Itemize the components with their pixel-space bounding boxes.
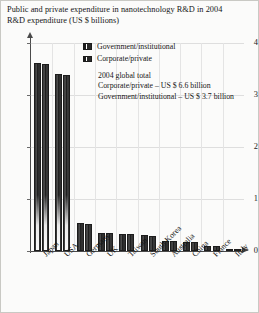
chart-annotation: 2004 global total Corporate/private – US… (98, 71, 234, 102)
bar-highlight (65, 195, 68, 250)
legend-swatch-corporate-icon (83, 56, 92, 63)
annotation-line-government: Government/institutional – US $ 3.7 bill… (98, 92, 234, 102)
legend-label-corporate: Corporate/private (97, 55, 152, 63)
legend-item-government: Government/institutional (83, 41, 175, 52)
bar-highlight (44, 195, 47, 250)
gridline-vertical (52, 43, 53, 251)
bar-corporate (42, 64, 49, 251)
chart-legend: Government/institutional Corporate/priva… (83, 41, 175, 66)
bar-highlight (36, 195, 39, 250)
legend-item-corporate: Corporate/private (83, 54, 175, 65)
bar-government (119, 234, 126, 251)
gridline-vertical (95, 43, 96, 251)
chart-title: Public and private expenditure in nanote… (7, 4, 255, 15)
legend-swatch-government-icon (83, 43, 92, 50)
gridline-vertical (74, 43, 75, 251)
legend-label-government: Government/institutional (97, 43, 175, 51)
bar-corporate (63, 75, 70, 251)
bar-government (34, 63, 41, 251)
bar-government (55, 74, 62, 251)
chart-title-block: Public and private expenditure in nanote… (7, 4, 255, 26)
chart-figure: Public and private expenditure in nanote… (0, 0, 259, 313)
bar-highlight (57, 195, 60, 250)
chart-subtitle: R&D expenditure (US $ billions) (7, 15, 255, 26)
y-axis-tick-mark (27, 251, 31, 252)
annotation-line-total: 2004 global total (98, 71, 234, 81)
x-axis-labels: JapanUSAGermanyUKTaiwanSouth KoreaAustra… (31, 253, 256, 313)
annotation-line-corporate: Corporate/private – US $ 6.6 billion (98, 81, 234, 91)
